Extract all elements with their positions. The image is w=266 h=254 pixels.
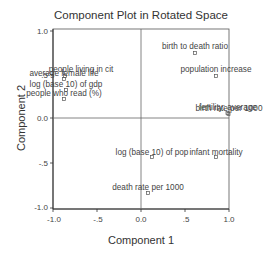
point-labels: birth to death ratio population increase… <box>26 42 263 192</box>
point-label: birth rate per 1000 <box>196 104 263 113</box>
point-label: infant mortality <box>189 148 243 157</box>
x-tick-label: 0.0 <box>135 215 147 224</box>
point-label: birth to death ratio <box>162 42 228 51</box>
component-plot: Component Plot in Rotated Space 1.0 .5 0… <box>0 0 266 254</box>
y-ticks: 1.0 .5 0.0 -.5 -1.0 <box>34 27 53 212</box>
point-label: average female life <box>29 69 99 78</box>
x-tick-label: -.5 <box>93 215 103 224</box>
y-tick-label: -.5 <box>39 159 49 168</box>
y-tick-label: -1.0 <box>34 203 48 212</box>
marker-population-increase <box>215 75 218 78</box>
y-axis-label: Component 2 <box>15 85 27 151</box>
point-label: log (base 10) of pop <box>116 148 189 157</box>
chart-title: Component Plot in Rotated Space <box>54 9 228 21</box>
y-tick-label: 0.0 <box>37 114 49 123</box>
point-label: log (base 10) of gdp <box>30 80 103 89</box>
marker-birth-death-ratio <box>194 52 197 55</box>
point-label: death rate per 1000 <box>112 183 184 192</box>
point-label: population increase <box>180 65 251 74</box>
x-tick-label: -1.0 <box>47 215 61 224</box>
x-ticks: -1.0 -.5 0.0 .5 1.0 <box>47 209 235 224</box>
x-tick-label: 1.0 <box>223 215 235 224</box>
y-tick-label: 1.0 <box>37 27 49 36</box>
point-label: people who read (%) <box>26 89 102 98</box>
x-axis-label: Component 1 <box>108 234 174 246</box>
x-tick-label: .5 <box>183 215 190 224</box>
